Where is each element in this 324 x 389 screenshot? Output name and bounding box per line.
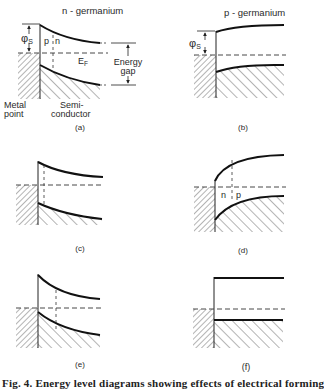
n-region-label: n — [221, 190, 226, 200]
panel-e: (e) — [16, 274, 104, 369]
panel-c-label: (c) — [75, 244, 85, 253]
metal-region — [16, 185, 38, 225]
conduction-band — [38, 275, 100, 299]
phi-s-label: φS — [21, 32, 33, 45]
panel-f: (f) — [193, 277, 285, 372]
p-region-label: p — [44, 36, 49, 46]
metal-region — [193, 309, 214, 348]
panel-c: (c) — [16, 161, 104, 253]
figure-caption: Fig. 4. Energy level diagrams showing ef… — [2, 377, 298, 389]
metal-label-2: point — [4, 109, 24, 119]
metal-region — [18, 53, 40, 99]
panel-a: n - germanium φS p n EF Energy gap Metal… — [4, 5, 143, 132]
panel-f-label: (f) — [242, 362, 251, 372]
panel-d-label: (d) — [238, 246, 248, 255]
panel-b-label: (b) — [238, 123, 248, 132]
conduction-band — [216, 25, 284, 32]
metal-region — [16, 308, 38, 348]
p-region-label: p — [236, 190, 241, 200]
panel-d: n p (d) — [194, 155, 286, 255]
panel-a-title: n - germanium — [62, 5, 123, 16]
metal-region — [194, 187, 215, 232]
valence-band-fill — [215, 196, 284, 232]
panel-a-label: (a) — [75, 123, 85, 132]
panel-b-title: p - germanium — [224, 7, 285, 18]
panel-e-label: (e) — [75, 360, 85, 369]
n-region-label: n — [55, 36, 60, 46]
semi-label-2: conductor — [51, 109, 91, 119]
fermi-label: EF — [78, 56, 88, 67]
conduction-band — [38, 162, 103, 177]
conduction-band — [215, 155, 284, 181]
energy-gap-label-2: gap — [120, 66, 135, 76]
metal-region — [194, 55, 216, 98]
valence-band-fill — [214, 320, 283, 348]
panel-b: p - germanium φS (b) — [189, 7, 286, 132]
phi-s-label: φS — [189, 37, 201, 50]
